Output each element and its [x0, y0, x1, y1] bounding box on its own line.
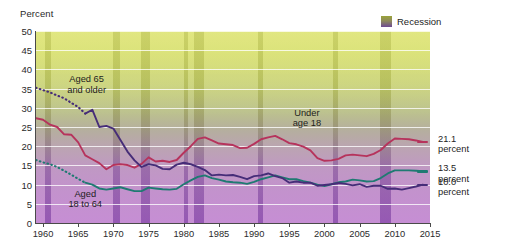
plot-area: Aged 65 and older Under age 18 Aged 18 t… — [36, 31, 430, 223]
series-line-aged-18-to-64-dotted — [36, 160, 85, 183]
end-label-dash — [417, 170, 428, 172]
x-tick-label: 1970 — [103, 229, 124, 239]
x-tick-mark — [219, 223, 220, 227]
x-tick-label: 2015 — [420, 229, 441, 239]
series-line-aged-18-to-64 — [85, 170, 423, 191]
y-tick-label: 15 — [8, 160, 32, 171]
x-tick-mark — [395, 223, 396, 227]
x-tick-mark — [360, 223, 361, 227]
x-tick-label: 2010 — [384, 229, 405, 239]
x-tick-label: 1995 — [279, 229, 300, 239]
x-tick-label: 1985 — [209, 229, 230, 239]
x-tick-label: 1990 — [244, 229, 265, 239]
y-tick-label: 10 — [8, 179, 32, 190]
recession-swatch-icon — [381, 16, 392, 27]
x-tick-mark — [289, 223, 290, 227]
x-tick-mark — [184, 223, 185, 227]
y-tick-label: 25 — [8, 122, 32, 133]
end-label-dash — [417, 141, 428, 143]
y-tick-label: 0 — [8, 218, 32, 229]
annotation-aged-18-64: Aged 18 to 64 — [62, 189, 108, 210]
x-tick-label: 2005 — [349, 229, 370, 239]
y-tick-label: 45 — [8, 45, 32, 56]
chart-root: Percent Recession 50454035302520151050 A… — [0, 0, 508, 252]
x-tick-mark — [324, 223, 325, 227]
x-tick-mark — [113, 223, 114, 227]
x-tick-label: 1960 — [33, 229, 54, 239]
end-label-aged-65-and-older: 10.0 percent — [438, 177, 469, 198]
x-tick-label: 1980 — [173, 229, 194, 239]
x-tick-mark — [43, 223, 44, 227]
y-tick-label: 30 — [8, 102, 32, 113]
y-tick-label: 5 — [8, 198, 32, 209]
y-tick-label: 50 — [8, 26, 32, 37]
x-tick-label: 1965 — [68, 229, 89, 239]
annotation-aged-65: Aged 65 and older — [59, 74, 115, 95]
x-tick-mark — [78, 223, 79, 227]
y-tick-label: 20 — [8, 141, 32, 152]
y-axis-ticks: 50454035302520151050 — [4, 0, 32, 252]
end-label-dash — [417, 184, 428, 186]
x-tick-label: 2000 — [314, 229, 335, 239]
x-tick-label: 1975 — [138, 229, 159, 239]
series-line-aged-65-and-older — [85, 110, 423, 190]
legend-item-recession: Recession — [397, 16, 441, 27]
y-tick-label: 35 — [8, 83, 32, 94]
x-tick-mark — [430, 223, 431, 227]
y-tick-label: 40 — [8, 64, 32, 75]
end-label-under-age-18: 21.1 percent — [438, 134, 469, 155]
annotation-under-18: Under age 18 — [284, 108, 330, 129]
legend: Recession — [381, 16, 441, 27]
x-tick-mark — [149, 223, 150, 227]
x-axis-line — [35, 223, 431, 224]
series-line-under-age-18 — [36, 118, 423, 169]
x-tick-mark — [254, 223, 255, 227]
